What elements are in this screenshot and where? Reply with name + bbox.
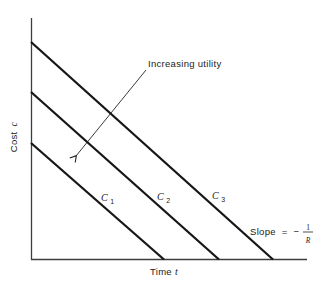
slope-fraction-numerator: 1 <box>306 223 310 232</box>
figure-canvas: Increasing utility Cost c Time t C 1 C 2… <box>0 0 321 284</box>
x-axis-label-word: Time <box>150 266 172 277</box>
utility-direction-arrow <box>76 70 146 156</box>
cost-line-c3 <box>31 42 273 260</box>
y-axis-label: Cost c <box>8 122 19 153</box>
x-axis-label-var: t <box>175 266 178 277</box>
slope-fraction-denominator: R <box>305 236 311 245</box>
cost-time-utility-figure: Increasing utility Cost c Time t C 1 C 2… <box>0 0 321 284</box>
x-axis-label: Time t <box>150 266 178 277</box>
line-label-c2: C 2 <box>157 191 170 204</box>
increasing-utility-label: Increasing utility <box>148 58 222 69</box>
line-label-c3: C 3 <box>212 190 225 203</box>
cost-line-c2 <box>31 92 219 260</box>
y-axis-label-var: c <box>8 122 19 127</box>
line-label-c1: C 1 <box>101 192 114 205</box>
cost-line-c1 <box>31 143 164 260</box>
slope-label: Slope = − <box>250 226 300 237</box>
y-axis-label-word: Cost <box>8 131 19 152</box>
